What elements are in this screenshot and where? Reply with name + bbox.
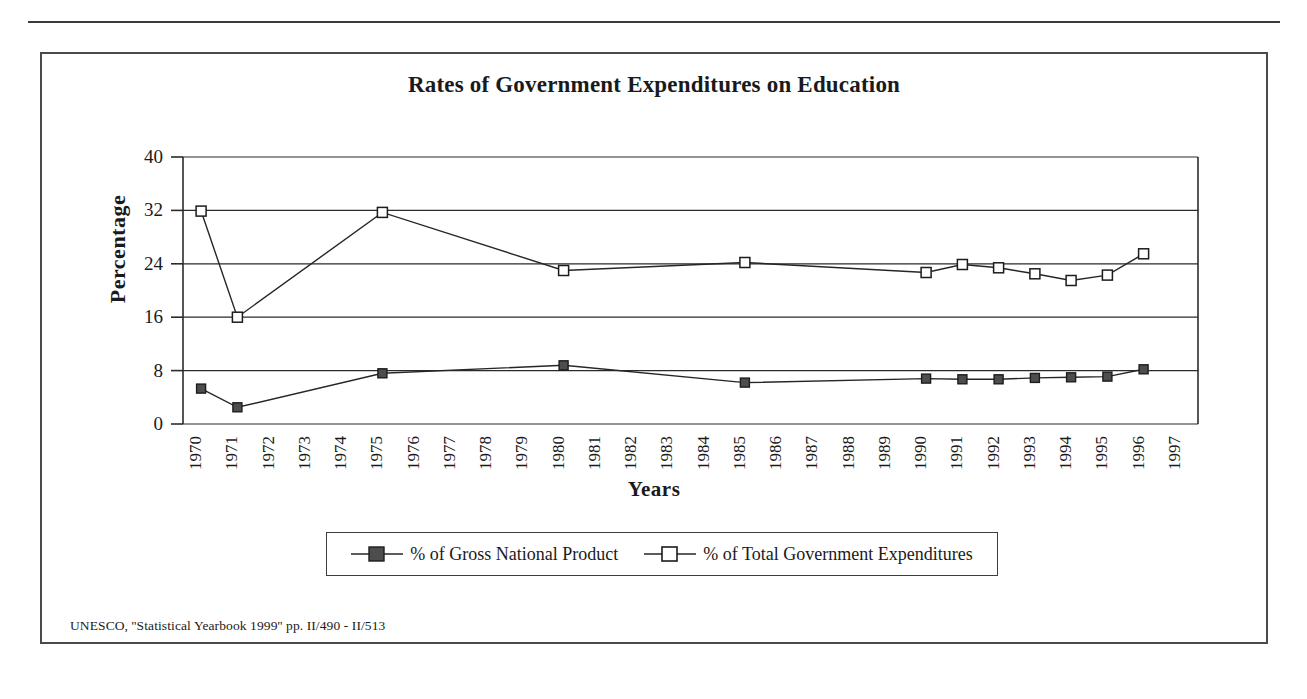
data-point-marker	[1139, 365, 1148, 374]
legend-label-total-gov-exp: % of Total Government Expenditures	[703, 544, 972, 565]
series-line-0	[201, 365, 1144, 407]
y-tick-label: 32	[144, 199, 163, 220]
x-tick-label: 1986	[766, 436, 785, 470]
data-point-marker	[740, 378, 749, 387]
data-point-marker	[1066, 276, 1076, 286]
data-point-marker	[196, 206, 206, 216]
chart-legend: % of Gross National Product % of Total G…	[326, 532, 998, 576]
x-tick-label: 1990	[911, 436, 930, 470]
data-point-marker	[232, 312, 242, 322]
y-tick-label: 24	[144, 253, 164, 274]
data-point-marker	[957, 260, 967, 270]
data-point-marker	[197, 384, 206, 393]
data-point-marker	[559, 361, 568, 370]
figure-frame: Rates of Government Expenditures on Educ…	[40, 52, 1268, 644]
data-point-marker	[1030, 373, 1039, 382]
data-point-marker	[740, 258, 750, 268]
x-tick-label: 1971	[222, 436, 241, 470]
x-tick-label: 1994	[1056, 436, 1075, 471]
x-tick-label: 1993	[1020, 436, 1039, 470]
x-tick-label: 1996	[1129, 436, 1148, 470]
y-tick-label: 8	[154, 360, 164, 381]
data-point-marker	[377, 207, 387, 217]
data-point-marker	[233, 403, 242, 412]
data-point-marker	[922, 374, 931, 383]
x-tick-label: 1989	[875, 436, 894, 470]
filled-square-marker-icon	[351, 546, 403, 562]
x-tick-label: 1997	[1165, 436, 1184, 471]
legend-item-gnp: % of Gross National Product	[351, 544, 618, 565]
data-point-marker	[1139, 249, 1149, 259]
x-axis-ticks: 1970197119721973197419751976197719781979…	[186, 436, 1184, 471]
y-axis-ticks: 0816243240	[144, 146, 164, 434]
x-tick-label: 1983	[657, 436, 676, 470]
x-tick-label: 1970	[186, 436, 205, 470]
source-note: UNESCO, ''Statistical Yearbook 1999'' pp…	[70, 618, 385, 634]
y-tick-label: 40	[144, 146, 163, 167]
data-point-marker	[559, 266, 569, 276]
open-square-marker-icon	[644, 546, 696, 562]
data-point-marker	[1030, 269, 1040, 279]
x-tick-label: 1987	[802, 436, 821, 471]
x-tick-label: 1972	[259, 436, 278, 470]
x-tick-label: 1978	[476, 436, 495, 470]
data-point-marker	[378, 369, 387, 378]
x-axis-title: Years	[42, 477, 1266, 502]
x-tick-label: 1991	[947, 436, 966, 470]
x-tick-label: 1982	[621, 436, 640, 470]
data-point-marker	[1102, 270, 1112, 280]
x-tick-label: 1979	[512, 436, 531, 470]
x-tick-label: 1992	[984, 436, 1003, 470]
x-tick-label: 1977	[440, 436, 459, 471]
x-tick-label: 1984	[694, 436, 713, 471]
data-point-marker	[994, 263, 1004, 273]
y-tick-label: 16	[144, 306, 163, 327]
data-point-marker	[1067, 373, 1076, 382]
x-tick-label: 1973	[295, 436, 314, 470]
x-tick-label: 1980	[549, 436, 568, 470]
x-tick-label: 1981	[585, 436, 604, 470]
x-tick-label: 1988	[839, 436, 858, 470]
x-tick-label: 1995	[1092, 436, 1111, 470]
data-series-group	[196, 206, 1149, 412]
x-tick-label: 1985	[730, 436, 749, 470]
legend-item-total-gov-exp: % of Total Government Expenditures	[644, 544, 972, 565]
x-tick-label: 1976	[404, 436, 423, 470]
data-point-marker	[921, 268, 931, 278]
grid-lines	[171, 157, 1198, 424]
chart-plot-area: 0816243240 19701971197219731974197519761…	[42, 54, 1266, 474]
legend-label-gnp: % of Gross National Product	[410, 544, 618, 565]
y-tick-label: 0	[154, 413, 164, 434]
data-point-marker	[958, 375, 967, 384]
data-point-marker	[994, 375, 1003, 384]
page-horizontal-rule	[28, 21, 1280, 23]
x-tick-label: 1974	[331, 436, 350, 471]
data-point-marker	[1103, 372, 1112, 381]
x-tick-label: 1975	[367, 436, 386, 470]
